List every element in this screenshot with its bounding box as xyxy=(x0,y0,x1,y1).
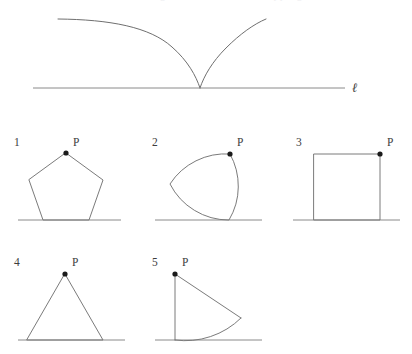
panel-pentagon: 1 P xyxy=(14,136,121,220)
cycloid-right-branch xyxy=(200,19,266,88)
panel-2-point-label: P xyxy=(237,136,243,148)
figure-root: rolls along the line without slipping ℓ … xyxy=(0,0,412,354)
panel-1-number: 1 xyxy=(14,136,20,148)
panel-5-point-p xyxy=(172,271,177,276)
cycloid-left-branch xyxy=(58,19,200,88)
sector-arc xyxy=(175,318,241,341)
panel-3-number: 3 xyxy=(296,136,302,148)
panel-3-point-p xyxy=(377,151,382,156)
panel-reuleaux-triangle: 2 P xyxy=(152,136,262,220)
panel-4-point-p xyxy=(62,271,67,276)
panel-4-number: 4 xyxy=(14,256,20,268)
panel-1-point-p xyxy=(63,150,68,155)
panel-square: 3 P xyxy=(293,136,400,220)
equilateral-triangle-outline xyxy=(27,274,103,340)
geometry-figure-canvas: ℓ 1 P 2 P 3 P 4 xyxy=(0,0,412,354)
panel-3-point-label: P xyxy=(387,136,393,148)
top-diagram-group: ℓ xyxy=(33,19,358,95)
line-ell-label: ℓ xyxy=(352,80,358,95)
panel-4-point-label: P xyxy=(72,256,78,268)
panel-2-point-p xyxy=(227,151,232,156)
panel-circular-sector: 5 P xyxy=(152,256,262,341)
sector-radius-slanted xyxy=(175,274,241,318)
panel-2-number: 2 xyxy=(152,136,158,148)
panel-5-number: 5 xyxy=(152,256,158,268)
reuleaux-triangle-outline xyxy=(170,154,238,220)
panel-1-point-label: P xyxy=(73,136,79,148)
panel-5-point-label: P xyxy=(182,256,188,268)
square-outline xyxy=(314,154,380,220)
pentagon-outline xyxy=(29,153,103,220)
panel-equilateral-triangle: 4 P xyxy=(14,256,125,340)
